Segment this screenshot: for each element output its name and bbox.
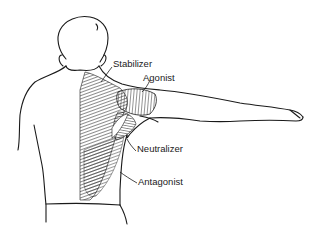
leader-antagonist <box>120 172 137 183</box>
leader-stabilizer <box>101 67 112 82</box>
head-outline <box>58 17 108 62</box>
anatomy-figure: Stabilizer Agonist Neutralizer Antagonis… <box>0 0 318 235</box>
body-outline-drawing <box>0 0 318 235</box>
label-stabilizer: Stabilizer <box>113 59 152 69</box>
label-neutralizer: Neutralizer <box>137 144 183 154</box>
label-agonist: Agonist <box>143 73 175 83</box>
label-antagonist: Antagonist <box>138 177 183 187</box>
leader-neutralizer <box>127 139 136 151</box>
